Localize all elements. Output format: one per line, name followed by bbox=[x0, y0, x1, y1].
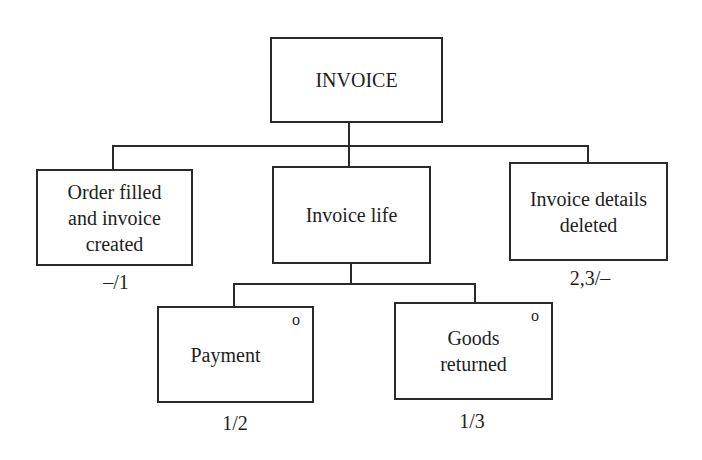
event-label: Goods returned bbox=[440, 325, 507, 377]
node-box-invoice-life: Invoice life bbox=[272, 166, 431, 264]
node-label: Invoice life bbox=[306, 202, 398, 228]
connector-invoice-deleted bbox=[587, 145, 589, 163]
connector-invoice-life-stem bbox=[350, 262, 352, 285]
event-box-payment: o Payment bbox=[157, 306, 314, 403]
event-label: Invoice details deleted bbox=[530, 186, 647, 238]
event-box-order-filled: Order filled and invoice created bbox=[36, 169, 193, 266]
state-annotation-order-filled: –/1 bbox=[76, 271, 156, 293]
state-annotation-invoice-deleted: 2,3/– bbox=[550, 267, 630, 289]
event-box-goods-returned: o Goods returned bbox=[394, 302, 553, 400]
connector-order-filled bbox=[112, 145, 114, 170]
entity-box-invoice: INVOICE bbox=[270, 37, 443, 123]
state-annotation-payment: 1/2 bbox=[195, 412, 275, 434]
connector-goods-returned bbox=[474, 283, 476, 304]
event-box-invoice-deleted: Invoice details deleted bbox=[509, 162, 668, 261]
connector-payment bbox=[233, 283, 235, 308]
iteration-marker: o bbox=[292, 312, 300, 328]
state-annotation-goods-returned: 1/3 bbox=[432, 410, 512, 432]
connector-invoice-life bbox=[348, 145, 350, 167]
event-label: Payment bbox=[191, 342, 261, 368]
connector-root-stem bbox=[348, 122, 350, 147]
connector-level2-bar bbox=[233, 283, 476, 285]
entity-label: INVOICE bbox=[315, 67, 397, 93]
connector-level1-bar bbox=[112, 145, 589, 147]
iteration-marker: o bbox=[531, 308, 539, 324]
event-label: Order filled and invoice created bbox=[68, 179, 162, 257]
